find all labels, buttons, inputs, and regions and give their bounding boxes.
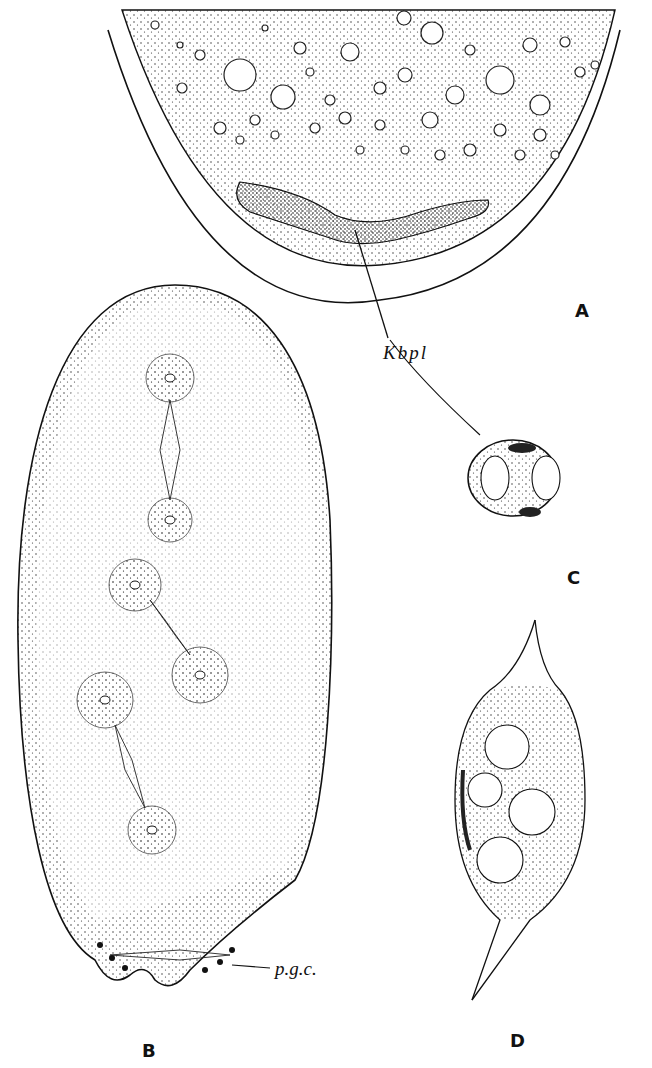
panel-c-drawing xyxy=(390,340,560,517)
panel-b-drawing xyxy=(18,285,332,986)
panel-label-a: A xyxy=(575,300,589,321)
pgc-annotation: p.g.c. xyxy=(275,958,317,980)
panel-label-b: B xyxy=(142,1040,156,1061)
biological-illustration xyxy=(0,0,652,1068)
kbpl-annotation: Kbpl xyxy=(383,342,428,364)
panel-label-d: D xyxy=(510,1030,525,1051)
panel-label-c: C xyxy=(567,567,580,588)
panel-d-drawing xyxy=(455,620,585,1000)
